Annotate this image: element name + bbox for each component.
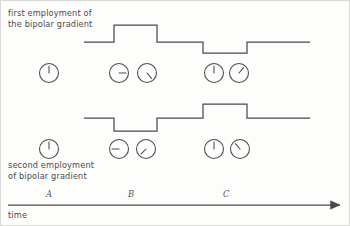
clock-hand-B2b [141,149,146,154]
axis-label-time: time [8,210,27,220]
caption-second-employment: second employment of bipolar gradient [8,160,94,182]
diagram-vector-layer [0,0,350,226]
time-axis [8,201,340,210]
tick-label-b: B [128,189,134,199]
waveform-first-bipolar-gradient [84,25,310,53]
figure-canvas: first employment of the bipolar gradient… [0,0,350,226]
clock-hand-C2b [236,144,241,149]
time-axis-arrowhead [331,201,341,210]
waveform-second-bipolar-gradient [84,104,310,131]
top-clock-row [40,64,249,83]
caption-first-employment: first employment of the bipolar gradient [8,8,92,30]
tick-label-c: C [223,189,230,199]
clock-hand-B2 [147,73,152,78]
figure-border [1,1,350,226]
bottom-clock-row [40,140,250,159]
tick-label-a: A [46,189,52,199]
clock-hand-C2 [239,68,244,73]
